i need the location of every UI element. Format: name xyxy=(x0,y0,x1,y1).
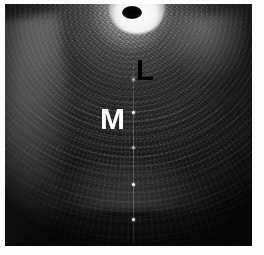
annotation-label-muscularis: M xyxy=(100,104,125,134)
ultrasound-scan-area: L M xyxy=(5,4,252,246)
depth-marker-dot xyxy=(132,183,135,186)
edge-vignette xyxy=(5,4,252,246)
ultrasound-figure: L M xyxy=(0,0,264,255)
transducer-core xyxy=(122,6,142,19)
depth-marker-dot xyxy=(132,111,135,114)
depth-marker-dot xyxy=(132,218,135,221)
annotation-label-lumen: L xyxy=(136,56,154,85)
depth-marker-dot xyxy=(132,146,135,149)
depth-marker-dot xyxy=(132,78,135,81)
depth-marker-line xyxy=(133,62,134,244)
